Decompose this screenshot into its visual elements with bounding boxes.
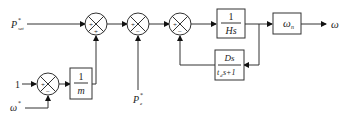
- label-p-set: P * set: [10, 17, 24, 31]
- label-one: 1: [15, 79, 20, 90]
- svg-text:1: 1: [229, 11, 234, 22]
- svg-text:m: m: [77, 85, 84, 96]
- svg-text:+: +: [94, 28, 98, 36]
- svg-text:*: *: [18, 17, 21, 23]
- svg-text:+: +: [131, 21, 135, 29]
- svg-text:e: e: [140, 101, 143, 106]
- svg-text:−: −: [46, 88, 50, 96]
- svg-text:+: +: [41, 81, 45, 89]
- svg-text:ω: ω: [10, 102, 17, 113]
- label-pe-star: P * e: [132, 92, 143, 106]
- svg-text:+: +: [173, 21, 177, 29]
- svg-text:P: P: [10, 19, 17, 30]
- svg-text:Hs: Hs: [224, 25, 236, 36]
- svg-text:+: +: [89, 21, 93, 29]
- svg-text:−: −: [136, 28, 140, 36]
- svg-text:s+1: s+1: [223, 68, 236, 77]
- svg-text:Ds: Ds: [223, 53, 234, 63]
- svg-text:n: n: [291, 24, 294, 30]
- block-diagram: + + + − + − + − 1 m 1 Hs ω n Ds: [0, 0, 347, 120]
- svg-text:1: 1: [79, 71, 84, 82]
- svg-text:*: *: [140, 92, 143, 98]
- svg-text:P: P: [132, 94, 139, 105]
- svg-text:set: set: [18, 26, 24, 31]
- svg-text:ω: ω: [283, 17, 291, 29]
- label-omega-output: ω: [331, 18, 339, 30]
- svg-text:*: *: [18, 100, 21, 106]
- svg-text:−: −: [178, 28, 182, 36]
- label-omega-star: ω *: [10, 100, 21, 113]
